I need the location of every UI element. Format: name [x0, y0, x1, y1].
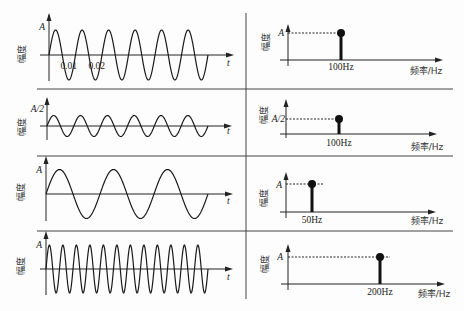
- x-axis-label: t: [227, 58, 230, 68]
- y-axis-label: 幅度: [15, 183, 26, 201]
- row3-time-plot: A t 幅度: [15, 156, 233, 221]
- amplitude-label: A/2: [271, 114, 285, 124]
- x-axis-label: 频率/Hz: [410, 65, 443, 76]
- amplitude-label: A: [35, 240, 42, 250]
- figure-canvas: A 0.01 0.02 t 幅度 A 100Hz 频率/Hz 幅度 A/2 t …: [0, 0, 464, 311]
- x-tick-label: 0.02: [88, 61, 105, 71]
- x-axis-label: 频率/Hz: [418, 288, 451, 299]
- row3-spectrum-plot: A 50Hz 频率/Hz 幅度: [258, 172, 444, 226]
- y-axis-label: 幅度: [258, 106, 269, 124]
- x-axis-arrow-icon: [435, 58, 443, 63]
- x-axis-label: 频率/Hz: [411, 141, 444, 152]
- x-axis-arrow-icon: [428, 210, 436, 215]
- y-axis-arrow-icon: [284, 99, 289, 107]
- y-axis-arrow-icon: [44, 156, 49, 164]
- row2-time-plot: A/2 t 幅度: [16, 97, 232, 140]
- spectral-peak-marker: [376, 253, 384, 261]
- y-axis-arrow-icon: [44, 231, 49, 239]
- y-axis-label: 幅度: [258, 189, 269, 207]
- signal-time-frequency-figure: A 0.01 0.02 t 幅度 A 100Hz 频率/Hz 幅度 A/2 t …: [0, 0, 464, 311]
- row1-spectrum-plot: A 100Hz 频率/Hz 幅度: [260, 24, 443, 76]
- x-axis-label: t: [227, 196, 230, 206]
- amplitude-label: A: [38, 22, 45, 32]
- y-axis-label: 幅度: [16, 118, 27, 136]
- x-axis-arrow-icon: [429, 132, 437, 137]
- y-axis-arrow-icon: [286, 24, 291, 32]
- amplitude-label: A: [276, 252, 283, 262]
- x-axis-label: 频率/Hz: [411, 215, 444, 226]
- row2-spectrum-plot: A/2 100Hz 频率/Hz 幅度: [258, 99, 444, 152]
- row4-spectrum-plot: A 200Hz 频率/Hz 幅度: [259, 244, 451, 299]
- x-axis-label: t: [227, 126, 230, 136]
- spectral-peak-marker: [308, 180, 316, 188]
- x-axis-arrow-icon: [437, 282, 445, 287]
- row4-time-plot: A t 幅度: [15, 231, 233, 295]
- x-axis-arrow-icon: [225, 267, 233, 272]
- amplitude-label: A/2: [30, 104, 44, 114]
- x-axis-label: t: [227, 272, 230, 282]
- amplitude-label: A: [277, 28, 284, 38]
- x-tick-label: 0.01: [60, 61, 77, 71]
- x-axis-arrow-icon: [226, 53, 234, 58]
- y-axis-arrow-icon: [47, 13, 52, 21]
- y-axis-arrow-icon: [286, 244, 291, 252]
- frequency-tick-label: 50Hz: [302, 215, 323, 225]
- amplitude-label: A: [35, 165, 42, 175]
- y-axis-arrow-icon: [45, 97, 50, 105]
- row1-time-plot: A 0.01 0.02 t 幅度: [16, 13, 234, 81]
- spectral-peak-marker: [337, 29, 345, 37]
- frequency-tick-label: 100Hz: [326, 138, 351, 148]
- y-axis-label: 幅度: [15, 257, 26, 275]
- spectral-peak-marker: [335, 115, 343, 123]
- y-axis-label: 幅度: [260, 33, 271, 51]
- frequency-tick-label: 200Hz: [367, 287, 392, 297]
- y-axis-label: 幅度: [16, 45, 27, 63]
- frequency-tick-label: 100Hz: [328, 62, 353, 72]
- y-axis-label: 幅度: [259, 255, 270, 273]
- amplitude-label: A: [275, 180, 282, 190]
- y-axis-arrow-icon: [284, 172, 289, 180]
